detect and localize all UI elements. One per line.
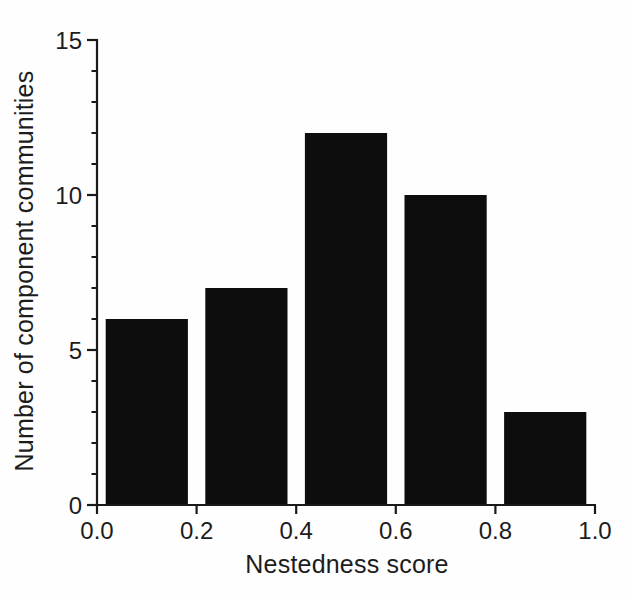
- histogram-bar: [205, 288, 287, 505]
- histogram-bar: [305, 133, 387, 505]
- x-axis-title: Nestedness score: [97, 549, 597, 579]
- x-tick-label: 0.0: [80, 517, 113, 544]
- y-tick-label: 10: [55, 182, 82, 209]
- y-tick-label: 15: [55, 27, 82, 54]
- chart-svg: 0.00.20.40.60.81.0051015: [0, 0, 631, 597]
- histogram-figure: 0.00.20.40.60.81.0051015 Nestedness scor…: [0, 0, 631, 597]
- y-tick-label: 5: [69, 337, 82, 364]
- x-tick-label: 0.6: [379, 517, 412, 544]
- x-tick-label: 0.8: [479, 517, 512, 544]
- x-tick-label: 0.2: [180, 517, 213, 544]
- x-tick-label: 1.0: [578, 517, 611, 544]
- x-tick-label: 0.4: [280, 517, 313, 544]
- y-axis-title: Number of component communities: [9, 61, 39, 481]
- histogram-bar: [504, 412, 586, 505]
- histogram-bar: [106, 319, 188, 505]
- histogram-bar: [405, 195, 487, 505]
- y-tick-label: 0: [69, 492, 82, 519]
